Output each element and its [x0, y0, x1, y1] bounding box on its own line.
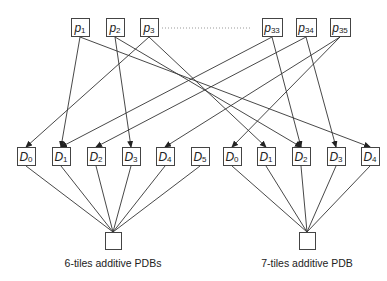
node-symbol: p — [109, 21, 116, 35]
right-db-node-R3: D3 — [327, 147, 346, 166]
right-pdb-sink — [299, 232, 316, 250]
edge-p34-R3 — [306, 37, 336, 147]
edge-p35-L4 — [165, 37, 340, 147]
node-symbol: D — [54, 150, 63, 164]
left-db-node-L0: D0 — [17, 147, 36, 166]
node-symbol: D — [363, 150, 372, 164]
right-db-node-R4: D4 — [361, 147, 380, 166]
pattern-node-p2: p2 — [106, 18, 125, 37]
pattern-node-p1: p1 — [71, 18, 90, 37]
sink-edge-R4 — [307, 166, 370, 232]
edge-p35-R0 — [232, 37, 340, 147]
right-group-caption: 7-tiles additive PDB — [261, 257, 353, 269]
right-db-node-R1: D1 — [257, 147, 276, 166]
node-symbol: D — [19, 150, 28, 164]
node-symbol: p — [298, 21, 305, 35]
sink-edge-L0 — [26, 166, 113, 232]
node-symbol: p — [332, 21, 339, 35]
diagram-edges — [0, 0, 387, 281]
left-db-node-L4: D4 — [156, 147, 175, 166]
sink-edge-R2 — [301, 166, 307, 232]
edge-p1-R4 — [80, 37, 370, 147]
node-symbol: D — [124, 150, 133, 164]
edge-layer — [26, 28, 370, 232]
left-db-node-L1: D1 — [52, 147, 71, 166]
right-db-node-R2: D2 — [292, 147, 311, 166]
node-symbol: D — [259, 150, 268, 164]
pattern-node-p35: p35 — [330, 18, 351, 37]
edge-p34-L2 — [96, 37, 306, 147]
left-db-node-L3: D3 — [122, 147, 141, 166]
node-symbol: p — [74, 21, 81, 35]
node-symbol: D — [329, 150, 338, 164]
sink-edge-R0 — [232, 166, 307, 232]
pattern-node-p3: p3 — [140, 18, 159, 37]
pattern-node-p34: p34 — [296, 18, 317, 37]
left-db-node-L5: D5 — [191, 147, 210, 166]
sink-edge-L5 — [113, 166, 200, 232]
node-symbol: D — [158, 150, 167, 164]
sink-edge-L2 — [96, 166, 113, 232]
sink-edge-R1 — [266, 166, 307, 232]
pattern-node-p33: p33 — [262, 18, 283, 37]
node-symbol: p — [143, 21, 150, 35]
node-symbol: D — [294, 150, 303, 164]
node-symbol: p — [264, 21, 271, 35]
edge-p1-L1 — [61, 37, 80, 147]
node-symbol: D — [225, 150, 234, 164]
right-db-node-R0: D0 — [223, 147, 242, 166]
left-db-node-L2: D2 — [87, 147, 106, 166]
node-symbol: D — [193, 150, 202, 164]
sink-edge-R3 — [307, 166, 336, 232]
sink-edge-L3 — [113, 166, 131, 232]
edge-p3-L0 — [26, 37, 149, 147]
left-pdb-sink — [105, 232, 122, 250]
node-symbol: D — [89, 150, 98, 164]
left-group-caption: 6-tiles additive PDBs — [65, 257, 162, 269]
